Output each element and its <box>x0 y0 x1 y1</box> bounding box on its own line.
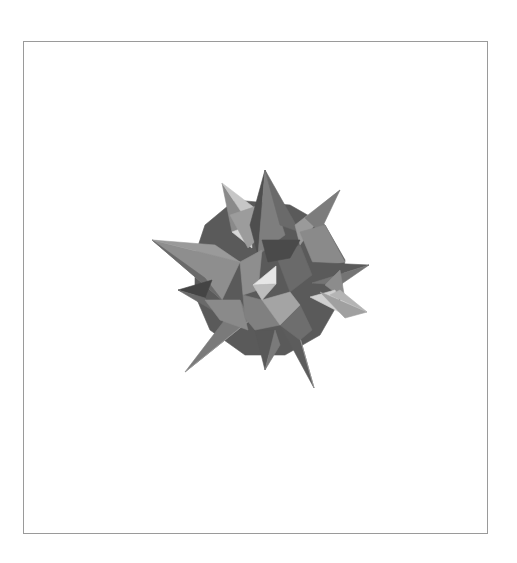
stellated-polyhedron-image <box>0 0 517 563</box>
polyhedron-faces <box>152 170 369 388</box>
